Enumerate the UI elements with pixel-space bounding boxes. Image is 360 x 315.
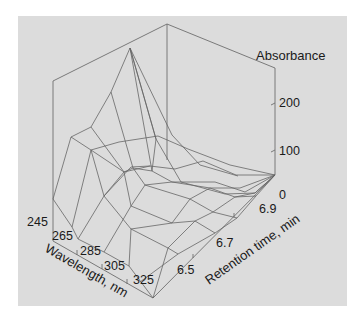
- x-tick-325: 325: [133, 273, 154, 287]
- z-axis-label: Absorbance: [256, 48, 325, 63]
- x-tick-305: 305: [104, 259, 125, 273]
- z-tick-0: 0: [279, 188, 286, 202]
- x-tick-285: 285: [80, 244, 101, 258]
- y-tick-6.5: 6.5: [177, 263, 194, 277]
- x-tick-265: 265: [52, 229, 73, 243]
- z-tick-200: 200: [279, 96, 300, 110]
- y-tick-6.9: 6.9: [259, 202, 276, 216]
- x-tick-245: 245: [27, 215, 48, 229]
- y-tick-6.7: 6.7: [216, 236, 233, 250]
- surface-plot: Absorbance 200 100 0 245 265 285 305 325…: [0, 0, 360, 315]
- z-tick-100: 100: [279, 144, 300, 158]
